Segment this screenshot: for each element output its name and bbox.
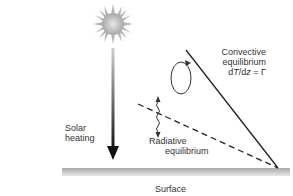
surface-label: Surface <box>155 184 186 194</box>
solar-heating-label: Solar heating <box>65 123 95 143</box>
radiation-wavy-arrow-icon <box>156 96 161 138</box>
radiative-label-line1: Radiative <box>149 136 209 146</box>
convection-loop-icon <box>171 60 191 94</box>
diagram-canvas <box>0 0 293 196</box>
surface-ground <box>62 168 290 176</box>
solar-label-line1: Solar <box>65 123 95 133</box>
radiative-label-line2: equilibrium <box>149 146 209 156</box>
solar-heating-arrow <box>107 48 119 160</box>
radiative-label: Radiative equilibrium <box>149 136 209 156</box>
convective-label-line2: equilibrium <box>196 57 266 67</box>
convective-label-line1: Convective <box>196 47 266 57</box>
solar-label-line2: heating <box>65 133 95 143</box>
lapse-rate-equation: dT/dz = Γ <box>196 67 266 77</box>
convective-label: Convective equilibrium dT/dz = Γ <box>196 47 266 77</box>
sun-icon <box>93 4 133 44</box>
eq-gamma: = Γ <box>251 67 266 77</box>
